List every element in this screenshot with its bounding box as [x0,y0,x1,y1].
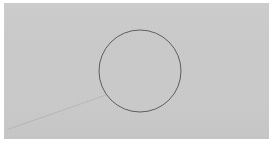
figure-canvas [0,0,273,143]
vector-figure [4,3,269,139]
faint-construction-line [9,95,106,129]
main-circle-outline [99,30,181,112]
drawing-panel [4,3,269,139]
